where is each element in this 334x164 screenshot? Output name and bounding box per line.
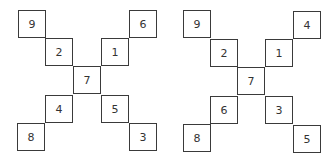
- cell-center: 7: [237, 67, 265, 95]
- cell-top-right-outer: 4: [293, 11, 321, 39]
- cell-bottom-right-inner: 3: [265, 96, 293, 124]
- cell-bottom-right-outer: 5: [293, 125, 321, 153]
- cell-top-right-inner: 1: [265, 39, 293, 67]
- cell-bottom-left-inner: 6: [210, 96, 238, 124]
- cell-bottom-left-outer: 8: [183, 124, 211, 152]
- cell-top-left-inner: 2: [210, 39, 238, 67]
- right-x-figure: 9 2 1 4 7 6 8 3 5: [0, 0, 167, 164]
- cell-top-left-outer: 9: [183, 10, 211, 38]
